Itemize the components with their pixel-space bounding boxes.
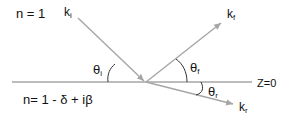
reflected-ray [146, 23, 221, 82]
reflected-wavevector-sub: f [233, 13, 235, 22]
incident-wavevector-sub: i [70, 11, 72, 20]
medium-bottom-label: n= 1 - δ + iβ [23, 94, 93, 106]
refracted-angle-label: θr [208, 86, 218, 102]
interface-label: Z=0 [257, 77, 276, 89]
theta-f-arc [176, 59, 187, 82]
refracted-wavevector-label: kr [239, 101, 248, 117]
incident-angle-label: θi [93, 64, 102, 80]
reflected-angle-sub: f [197, 67, 199, 76]
theta-i-arc [108, 64, 115, 82]
incident-wavevector-label: ki [64, 6, 72, 22]
refracted-ray [146, 82, 233, 104]
incident-angle-sub: i [100, 69, 102, 78]
theta-r-arc [196, 82, 203, 95]
refracted-angle-sub: r [215, 91, 218, 100]
medium-top-label: n = 1 [16, 8, 45, 20]
refracted-wavevector-sub: r [245, 106, 248, 115]
reflected-angle-label: θf [190, 62, 199, 78]
reflected-wavevector-label: kf [227, 8, 235, 24]
incident-ray [78, 18, 144, 81]
